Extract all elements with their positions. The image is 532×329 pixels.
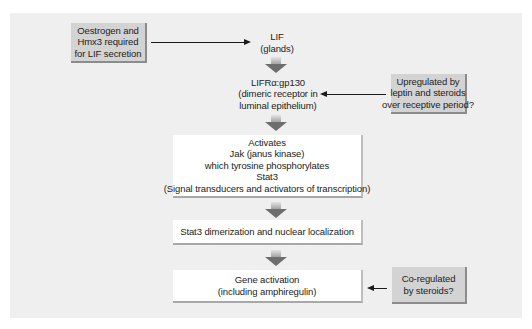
step-line: (including amphiregulin) xyxy=(218,286,316,298)
step-stat3-dimerization: Stat3 dimerization and nuclear localizat… xyxy=(173,220,363,245)
step-line: (glands) xyxy=(260,43,294,55)
step-line: Stat3 dimerization and nuclear localizat… xyxy=(180,226,354,238)
step-lif: LIF (glands) xyxy=(252,30,302,56)
arrow-tip xyxy=(265,209,287,218)
arrow-tip xyxy=(265,122,287,131)
note-line: by steroids? xyxy=(403,285,453,297)
step-line: (dimeric receptor in xyxy=(238,88,317,100)
arrowhead-right-icon xyxy=(244,39,251,45)
note-line: Hmx3 required xyxy=(77,36,138,48)
arrow-leptin-to-receptor xyxy=(326,94,386,95)
note-line: over receptive period? xyxy=(382,99,474,111)
step-line: LIF xyxy=(270,31,283,43)
step-line: luminal epithelium) xyxy=(239,100,316,112)
note-line: for LIF secretion xyxy=(75,48,142,60)
step-line: (Signal transducers and activators of tr… xyxy=(164,183,371,195)
step-line: which tyrosine phosphorylates xyxy=(205,160,329,172)
block-arrow-down-icon xyxy=(265,57,287,73)
note-line: Co-regulated xyxy=(402,273,456,285)
step-line: Activates xyxy=(248,137,286,149)
note-line: Upregulated by xyxy=(396,76,459,88)
arrow-oestrogen-to-lif xyxy=(151,42,245,43)
note-leptin-steroids: Upregulated by leptin and steroids over … xyxy=(391,74,467,114)
step-gene-activation: Gene activation (including amphiregulin) xyxy=(173,270,363,303)
arrow-tip xyxy=(265,64,287,73)
step-line: Stat3 xyxy=(256,171,278,183)
step-activates-jak-stat3: Activates Jak (janus kinase) which tyros… xyxy=(173,135,363,198)
step-receptor: LIFRα:gp130 (dimeric receptor in luminal… xyxy=(226,76,330,112)
note-line: leptin and steroids xyxy=(390,87,465,99)
block-arrow-down-icon xyxy=(265,115,287,131)
note-line: Oestrogen and xyxy=(77,25,139,37)
step-line: Jak (janus kinase) xyxy=(230,148,305,160)
note-coregulated-steroids: Co-regulated by steroids? xyxy=(392,267,467,304)
note-oestrogen-hmx3: Oestrogen and Hmx3 required for LIF secr… xyxy=(71,23,147,63)
step-line: Gene activation xyxy=(235,274,300,286)
block-arrow-down-icon xyxy=(265,250,287,266)
block-arrow-down-icon xyxy=(265,202,287,218)
arrow-tip xyxy=(265,257,287,266)
arrow-steroids-to-gene xyxy=(373,288,387,289)
step-line: LIFRα:gp130 xyxy=(251,77,305,89)
